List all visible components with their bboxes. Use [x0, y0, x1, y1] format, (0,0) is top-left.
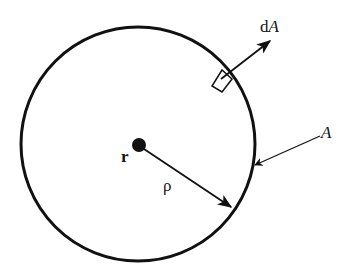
point-label: r	[121, 148, 129, 165]
dA-normal-arrow	[221, 41, 270, 79]
diagram-canvas: dA r ρ A	[0, 0, 357, 276]
surface-leader-arrow	[255, 136, 320, 165]
diagram-svg	[0, 0, 357, 276]
rho-label: ρ	[163, 177, 171, 194]
dA-label: dA	[260, 18, 279, 35]
surface-label: A	[321, 124, 331, 141]
rho-arrow	[141, 147, 231, 207]
